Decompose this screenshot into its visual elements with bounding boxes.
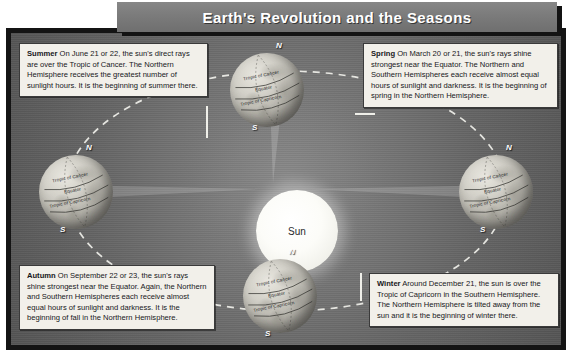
globe-top-summer: Tropic of Cancer Equator Tropic of Capri… bbox=[230, 53, 304, 127]
callout-autumn-heading: Autumn bbox=[27, 271, 56, 280]
diagram-frame: Sun Tropic of Cancer Equa bbox=[6, 28, 566, 350]
globe-sphere: Tropic of Cancer Equator Tropic of Capri… bbox=[243, 259, 317, 333]
globe-south-pole-label: S bbox=[60, 225, 65, 234]
callout-summer[interactable]: Summer On June 21 or 22, the sun's direc… bbox=[19, 43, 208, 97]
page-title: Earth's Revolution and the Seasons bbox=[203, 9, 472, 26]
globe-north-pole-label: N bbox=[289, 247, 295, 256]
globe-north-pole-label: N bbox=[276, 41, 282, 50]
globe-north-pole-label: N bbox=[86, 143, 92, 152]
globe-south-pole-label: S bbox=[480, 225, 485, 234]
callout-spring-heading: Spring bbox=[371, 49, 395, 58]
callout-spring[interactable]: Spring On March 20 or 21, the sun's rays… bbox=[363, 43, 558, 108]
callout-summer-heading: Summer bbox=[27, 49, 57, 58]
earth-revolution-seasons-figure: Sun Tropic of Cancer Equa bbox=[0, 0, 572, 354]
callout-winter[interactable]: Winter Around December 21, the sun is ov… bbox=[369, 273, 559, 327]
sun-label: Sun bbox=[288, 226, 306, 237]
globe-right-spring: Tropic of Cancer Equator Tropic of Capri… bbox=[459, 155, 533, 229]
callout-spring-body: On March 20 or 21, the sun's rays shine … bbox=[371, 49, 547, 100]
globe-south-pole-label: S bbox=[252, 123, 257, 132]
globe-bottom-winter: Tropic of Cancer Equator Tropic of Capri… bbox=[243, 259, 317, 333]
globe-north-pole-label: N bbox=[506, 143, 512, 152]
globe-left-autumn: Tropic of Cancer Equator Tropic of Capri… bbox=[39, 155, 113, 229]
callout-winter-body: Around December 21, the sun is over the … bbox=[377, 279, 541, 320]
title-bar: Earth's Revolution and the Seasons bbox=[117, 2, 557, 32]
globe-sphere: Tropic of Cancer Equator Tropic of Capri… bbox=[39, 155, 113, 229]
callout-autumn[interactable]: Autumn On September 22 or 23, the sun's … bbox=[19, 265, 215, 330]
globe-sphere: Tropic of Cancer Equator Tropic of Capri… bbox=[230, 53, 304, 127]
callout-winter-heading: Winter bbox=[377, 279, 401, 288]
globe-sphere: Tropic of Cancer Equator Tropic of Capri… bbox=[459, 155, 533, 229]
globe-south-pole-label: S bbox=[265, 329, 270, 338]
